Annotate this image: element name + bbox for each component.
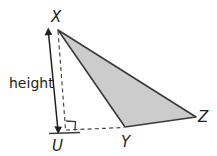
geometry-figure: X Y Z U height bbox=[0, 0, 217, 156]
foot-label-u: U bbox=[52, 137, 63, 155]
triangle-xyz-shaded bbox=[58, 30, 196, 127]
vertex-label-y: Y bbox=[121, 133, 132, 151]
height-arrowhead-top bbox=[45, 28, 53, 36]
altitude-dashed-line bbox=[58, 31, 66, 129]
height-label: height bbox=[9, 75, 54, 91]
vertex-label-x: X bbox=[50, 8, 62, 26]
vertex-label-z: Z bbox=[197, 108, 209, 126]
base-tick-line bbox=[49, 133, 80, 134]
